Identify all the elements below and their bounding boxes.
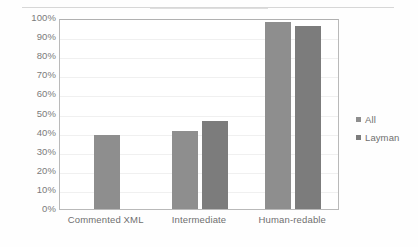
x-axis-category-label: Commented XML	[59, 214, 152, 225]
x-axis-category-label: Human-redable	[246, 214, 339, 225]
y-axis-tick-label: 0%	[12, 204, 56, 214]
bar-all	[94, 135, 120, 209]
y-axis-tick-label: 50%	[12, 109, 56, 119]
legend-item-label: All	[365, 114, 376, 125]
legend-swatch-icon	[356, 117, 361, 122]
bar-all	[172, 131, 198, 209]
y-axis-tick-label: 30%	[12, 147, 56, 157]
y-axis-tick-label: 60%	[12, 89, 56, 99]
y-axis-tick-label: 10%	[12, 185, 56, 195]
bar-layman	[202, 121, 228, 209]
x-axis-category-label: Intermediate	[152, 214, 245, 225]
scan-artifact-line-secondary	[150, 8, 268, 9]
legend-item: Layman	[356, 130, 414, 144]
legend: AllLayman	[356, 112, 414, 148]
plot-area	[59, 19, 339, 210]
bar-group	[153, 20, 246, 209]
legend-item-label: Layman	[365, 132, 399, 143]
y-axis-tick-label: 70%	[12, 70, 56, 80]
bar-group	[247, 20, 340, 209]
y-axis-tick-label: 90%	[12, 32, 56, 42]
bar-all	[265, 22, 291, 209]
y-axis-tick-label: 100%	[12, 13, 56, 23]
legend-swatch-icon	[356, 135, 361, 140]
legend-item: All	[356, 112, 414, 126]
bar-group	[60, 20, 153, 209]
y-axis-tick-label: 80%	[12, 51, 56, 61]
x-axis: Commented XMLIntermediateHuman-redable	[59, 214, 339, 234]
y-axis-tick-label: 20%	[12, 166, 56, 176]
bar-layman	[295, 26, 321, 209]
y-axis: 0%10%20%30%40%50%60%70%80%90%100%	[12, 18, 56, 210]
y-axis-tick-label: 40%	[12, 128, 56, 138]
bar-chart-figure: 0%10%20%30%40%50%60%70%80%90%100% Commen…	[0, 0, 418, 247]
bars-layer	[60, 20, 338, 209]
